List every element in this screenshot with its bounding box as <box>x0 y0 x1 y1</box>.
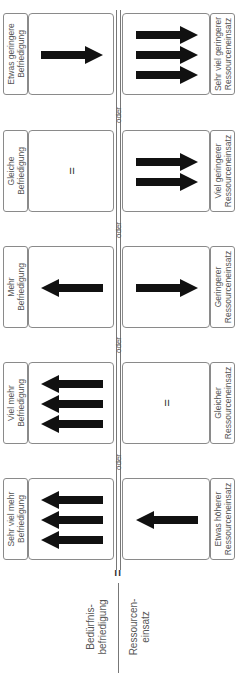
arrow-right-icon <box>136 153 198 171</box>
resources-label-line2: Ressourceneinsatz <box>223 17 233 91</box>
satisfaction-label-tab: Etwas geringereBefriedigung <box>3 13 28 95</box>
resources-indicator-box <box>122 130 210 212</box>
satisfaction-indicator-box <box>28 13 114 95</box>
resources-label-tab: GeringererRessourceneinsatz <box>210 246 235 328</box>
satisfaction-indicator-box <box>28 246 114 328</box>
divider-line-right <box>120 10 121 570</box>
satisfaction-label-line2: Befriedigung <box>16 23 26 84</box>
axis-label-resources: Ressourcen- einsatz <box>128 599 152 656</box>
arrow-right-icon <box>136 279 198 297</box>
satisfaction-label: MehrBefriedigung <box>6 263 26 311</box>
equals-icon: = <box>159 399 174 407</box>
divider-line-left <box>116 10 117 570</box>
oder-label: oder <box>114 222 123 238</box>
satisfaction-indicator-box <box>28 362 114 444</box>
resources-label-line2: Ressourceneinsatz <box>223 135 233 207</box>
satisfaction-label-line1: Mehr <box>6 263 16 311</box>
arrow-right-icon <box>136 66 198 84</box>
arrow-left-icon <box>41 375 103 393</box>
satisfaction-label-line2: Befriedigung <box>16 263 26 311</box>
resources-label-line2: Ressourceneinsatz <box>223 367 233 439</box>
axis-label-satisfaction-line2: befriedigung <box>97 599 109 654</box>
arrow-left-icon <box>136 511 198 529</box>
satisfaction-label-line2: Befriedigung <box>16 492 26 547</box>
arrow-left-icon <box>41 415 103 433</box>
satisfaction-indicator-box: = <box>28 130 114 212</box>
resources-label: GleicherRessourceneinsatz <box>213 367 233 439</box>
arrow-right-icon <box>136 173 198 191</box>
resources-indicator-box <box>122 13 210 95</box>
arrow-left-icon <box>41 395 103 413</box>
axis-label-resources-line2: einsatz <box>140 599 152 656</box>
resources-label-line1: Gleicher <box>213 367 223 439</box>
resources-label-tab: Etwas höhererRessourceneinsatz <box>210 478 235 560</box>
resources-label-line2: Ressourceneinsatz <box>223 251 233 323</box>
satisfaction-label-tab: Viel mehrBefriedigung <box>3 362 28 444</box>
satisfaction-indicator-box <box>28 478 114 560</box>
resources-label-tab: Viel geringererRessourceneinsatz <box>210 130 235 212</box>
equals-icon: = <box>64 167 79 175</box>
satisfaction-label-line2: Befriedigung <box>16 147 26 195</box>
resources-label: GeringererRessourceneinsatz <box>213 251 233 323</box>
arrow-left-icon <box>41 491 103 509</box>
satisfaction-label-line1: Viel mehr <box>6 379 16 427</box>
resources-label-line1: Sehr viel geringerer <box>213 17 223 91</box>
satisfaction-label-tab: Sehr viel mehrBefriedigung <box>3 478 28 560</box>
axis-label-resources-line1: Ressourcen- <box>128 599 140 656</box>
satisfaction-label-line1: Etwas geringere <box>6 23 16 84</box>
resources-label-tab: Sehr viel geringererRessourceneinsatz <box>210 13 235 95</box>
satisfaction-label: GleicheBefriedigung <box>6 147 26 195</box>
resources-label: Etwas höhererRessourceneinsatz <box>213 483 233 555</box>
satisfaction-label-line2: Befriedigung <box>16 379 26 427</box>
satisfaction-label-tab: MehrBefriedigung <box>3 246 28 328</box>
resources-indicator-box <box>122 478 210 560</box>
oder-label: oder <box>114 107 123 123</box>
resources-indicator-box: = <box>122 362 210 444</box>
satisfaction-label-tab: GleicheBefriedigung <box>3 130 28 212</box>
resources-label-line1: Etwas höherer <box>213 483 223 555</box>
resources-label-tab: GleicherRessourceneinsatz <box>210 362 235 444</box>
satisfaction-label-line1: Gleiche <box>6 147 16 195</box>
axis-divider-line <box>118 583 119 673</box>
equals-sign: = <box>111 569 125 576</box>
satisfaction-label: Etwas geringereBefriedigung <box>6 23 26 84</box>
arrow-right-icon <box>136 26 198 44</box>
satisfaction-label: Sehr viel mehrBefriedigung <box>6 492 26 547</box>
resources-label-line1: Viel geringerer <box>213 135 223 207</box>
satisfaction-label-line1: Sehr viel mehr <box>6 492 16 547</box>
resources-indicator-box <box>122 246 210 328</box>
arrow-left-icon <box>41 531 103 549</box>
satisfaction-label: Viel mehrBefriedigung <box>6 379 26 427</box>
resources-label-line1: Geringerer <box>213 251 223 323</box>
axis-label-satisfaction: Bedürfnis- befriedigung <box>85 599 109 654</box>
arrow-left-icon <box>41 511 103 529</box>
arrow-right-icon <box>136 46 198 64</box>
oder-label: oder <box>114 337 123 353</box>
arrow-left-icon <box>41 279 103 297</box>
resources-label: Sehr viel geringererRessourceneinsatz <box>213 17 233 91</box>
oder-label: oder <box>114 454 123 470</box>
resources-label: Viel geringererRessourceneinsatz <box>213 135 233 207</box>
axis-label-satisfaction-line1: Bedürfnis- <box>85 599 97 654</box>
resources-label-line2: Ressourceneinsatz <box>223 483 233 555</box>
arrow-right-icon <box>41 46 103 64</box>
